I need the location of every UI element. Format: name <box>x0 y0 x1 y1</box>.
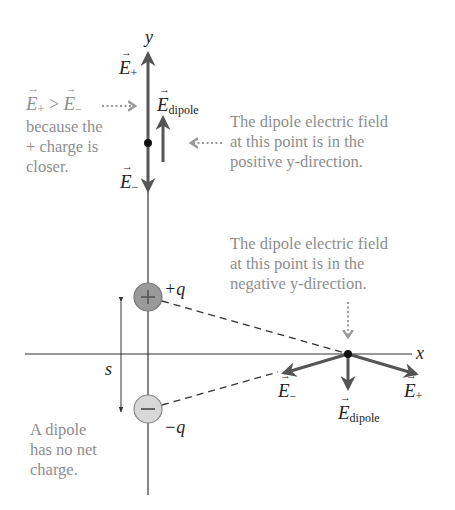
right-note-line-2: at this point is in the <box>230 254 388 274</box>
positive-charge-label: +q <box>164 280 185 298</box>
y-axis-label: y <box>145 28 153 46</box>
top-note-line-2: at this point is in the <box>230 132 388 152</box>
comparison-line-3: closer. <box>26 157 103 177</box>
net-note-line-2: has no net <box>30 440 97 460</box>
negative-charge <box>134 395 162 423</box>
net-charge-note: A dipole has no net charge. <box>30 420 97 480</box>
x-axis-label: x <box>416 344 424 362</box>
positive-charge <box>134 283 162 311</box>
right-note-line-1: The dipole electric field <box>230 234 388 254</box>
e-plus-right-label: E+ <box>404 381 422 402</box>
right-note-line-3: negative y-direction. <box>230 274 388 294</box>
comparison-line-2: + charge is <box>26 137 103 157</box>
comparison-note: E+ > E− because the + charge is closer. <box>26 94 103 177</box>
top-note-line-3: positive y-direction. <box>230 152 388 172</box>
e-minus-right-vector <box>284 354 348 373</box>
dashed-line-positive <box>162 301 345 353</box>
comparison-line-1: because the <box>26 117 103 137</box>
e-minus-top-label: E− <box>120 172 138 193</box>
separation-label: s <box>105 360 112 378</box>
e-dipole-right-label: Edipole <box>338 403 380 424</box>
top-note-line-1: The dipole electric field <box>230 112 388 132</box>
negative-charge-label: −q <box>164 418 185 436</box>
net-note-line-1: A dipole <box>30 420 97 440</box>
right-point-note: The dipole electric field at this point … <box>230 234 388 294</box>
top-point-note: The dipole electric field at this point … <box>230 112 388 172</box>
top-field-point <box>144 139 152 147</box>
e-dipole-top-label: Edipole <box>157 95 199 116</box>
comparison-expression: E+ > E− <box>26 94 103 115</box>
net-note-line-3: charge. <box>30 460 97 480</box>
e-minus-right-label: E− <box>278 381 296 402</box>
right-field-point <box>344 350 352 358</box>
e-plus-top-label: E+ <box>119 58 137 79</box>
dashed-line-negative <box>162 372 278 405</box>
